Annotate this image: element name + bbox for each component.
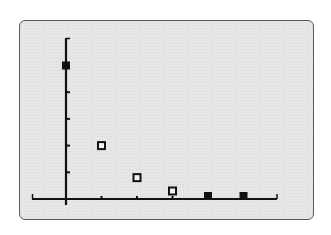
data-point [98,142,105,149]
data-point [63,62,70,69]
data-point [169,187,176,194]
scatter-plot [0,0,331,235]
data-point [240,193,247,200]
data-point [205,193,212,200]
data-point [134,174,141,181]
